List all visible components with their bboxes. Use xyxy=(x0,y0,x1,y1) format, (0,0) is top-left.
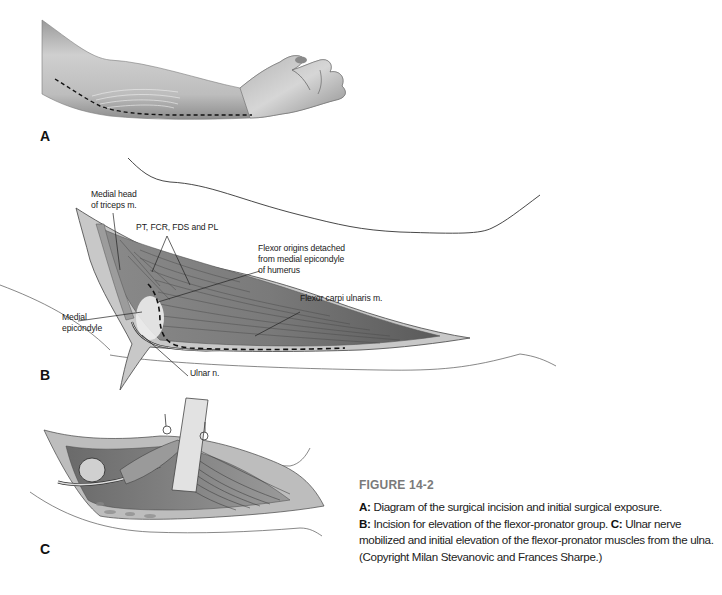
caption-text-b: Incision for elevation of the flexor-pro… xyxy=(371,517,611,530)
forearm-a xyxy=(42,20,345,119)
label-medial-epicondyle: Medial epicondyle xyxy=(62,312,102,334)
label-flexor-origins-detached: Flexor origins detached from medial epic… xyxy=(258,243,345,276)
figure-caption: FIGURE 14-2 A: Diagram of the surgical i… xyxy=(359,478,719,565)
panel-c-nerve-mobilization xyxy=(30,398,324,536)
figure-title: FIGURE 14-2 xyxy=(359,478,719,492)
caption-key-b: B: xyxy=(359,517,371,530)
label-pt-fcr-fds-pl: PT, FCR, FDS and PL xyxy=(136,222,218,233)
caption-text-a: Diagram of the surgical incision and ini… xyxy=(371,500,662,513)
label-flexor-carpi-ulnaris: Flexor carpi ulnaris m. xyxy=(300,293,382,304)
panel-letter-b: B xyxy=(40,367,50,383)
caption-key-c: C: xyxy=(611,517,623,530)
panel-letter-a: A xyxy=(40,128,50,144)
caption-key-a: A: xyxy=(359,500,371,513)
label-medial-head-triceps: Medial head of triceps m. xyxy=(91,189,137,211)
caption-body: A: Diagram of the surgical incision and … xyxy=(359,499,719,565)
label-ulnar-nerve: Ulnar n. xyxy=(190,368,219,379)
panel-letter-c: C xyxy=(40,541,50,557)
